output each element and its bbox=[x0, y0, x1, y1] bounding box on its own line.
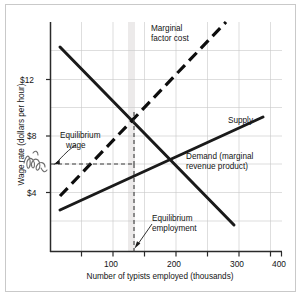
ytick-label-4: $4 bbox=[27, 188, 36, 198]
xtick-label-200: 200 bbox=[167, 259, 181, 269]
figure-container: $12 $8 $4 100 200 300 400 Wage rate (dol… bbox=[0, 0, 301, 303]
xticks bbox=[82, 252, 282, 257]
xtick-label-100: 100 bbox=[104, 259, 118, 269]
equilibrium-employment-arrow bbox=[138, 224, 152, 244]
equilibrium-wage-label-line2: wage bbox=[66, 141, 86, 151]
xtick-label-300: 300 bbox=[230, 259, 244, 269]
mfc-label-line1: Marginal bbox=[151, 24, 182, 34]
demand-label-line1: Demand (marginal bbox=[186, 152, 253, 162]
handwritten-scribble bbox=[24, 151, 47, 171]
equilibrium-wage-arrowhead bbox=[53, 160, 60, 165]
equilibrium-employment-label-line2: employment bbox=[152, 224, 197, 234]
chart-svg bbox=[0, 0, 301, 303]
supply-label: Supply bbox=[228, 116, 253, 126]
equilibrium-employment-label-line1: Equilibrium bbox=[152, 214, 193, 224]
x-axis-title: Number of typists employed (thousands) bbox=[45, 272, 275, 281]
equilibrium-wage-label-line1: Equilibrium bbox=[60, 131, 101, 141]
chart-plot-area: $12 $8 $4 100 200 300 400 Wage rate (dol… bbox=[0, 0, 301, 303]
demand-label-line2: revenue product) bbox=[186, 162, 248, 172]
y-axis-title: Wage rate (dollars per hour) bbox=[17, 70, 26, 200]
ytick-label-8: $8 bbox=[27, 131, 36, 141]
xtick-label-400: 400 bbox=[272, 259, 286, 269]
mfc-label-line2: factor cost bbox=[151, 34, 189, 44]
